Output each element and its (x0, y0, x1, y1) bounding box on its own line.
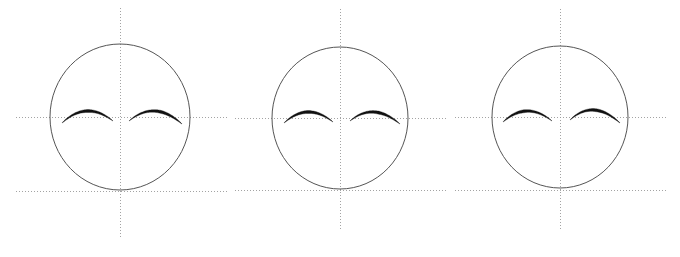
figure-background (0, 0, 680, 257)
figure-root (0, 0, 680, 257)
face-schematic-figure (0, 0, 680, 257)
